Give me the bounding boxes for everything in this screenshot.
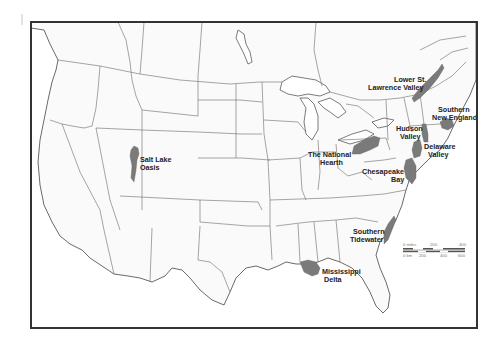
hearth-regions-map: Salt Lake Oasis Lower St. Lawrence Valle… bbox=[0, 0, 499, 343]
scale-km-tick-400: 400 bbox=[440, 253, 448, 258]
label-delaware-valley-2: Valley bbox=[428, 150, 448, 159]
label-chesapeake-bay-2: Bay bbox=[391, 175, 404, 184]
label-lower-st-lawrence-2: Lawrence Valley bbox=[368, 83, 424, 92]
scale-miles-tick-400: 400 bbox=[459, 242, 467, 247]
label-salt-lake-oasis-2: Oasis bbox=[140, 163, 160, 172]
label-mississippi-delta-2: Delta bbox=[324, 275, 343, 284]
scale-miles-label: 0 miles bbox=[403, 242, 416, 247]
label-national-hearth-2: Hearth bbox=[320, 158, 343, 167]
scale-miles-tick-200: 200 bbox=[430, 242, 438, 247]
scale-bar-km bbox=[403, 251, 465, 253]
scale-km-tick-600: 600 bbox=[458, 253, 466, 258]
label-hudson-valley-2: Valley bbox=[400, 132, 420, 141]
label-southern-new-england-2: New England bbox=[432, 113, 477, 122]
scale-km-label: 0 km bbox=[403, 253, 413, 258]
scale-bar: 0 miles 200 400 0 km 200 400 600 bbox=[403, 242, 467, 258]
scale-km-tick-200: 200 bbox=[419, 253, 427, 258]
label-southern-tidewater-2: Tidewater bbox=[350, 235, 384, 244]
